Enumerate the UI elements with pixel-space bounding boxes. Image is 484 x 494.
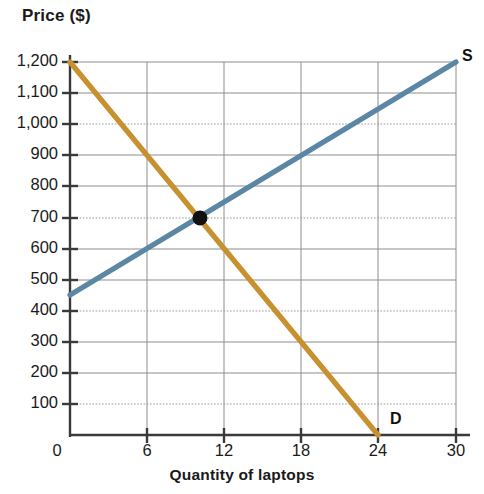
y-tick-label: 1,100 — [0, 82, 58, 101]
supply-curve — [70, 62, 456, 295]
supply-demand-chart: Price ($) — [0, 0, 484, 494]
chart-canvas — [0, 0, 484, 494]
gridlines-horizontal — [70, 62, 456, 404]
x-tick-label: 30 — [436, 441, 476, 460]
x-tick-label: 24 — [358, 441, 398, 460]
y-tick-label: 900 — [0, 144, 58, 163]
x-tick-label: 12 — [204, 441, 244, 460]
x-tick-label: 18 — [281, 441, 321, 460]
demand-curve-label: D — [390, 410, 402, 428]
y-tick-label: 800 — [0, 175, 58, 194]
supply-curve-label: S — [462, 47, 473, 65]
y-tick-label: 1,000 — [0, 113, 58, 132]
y-tick-label: 600 — [0, 238, 58, 257]
y-tick-label: 700 — [0, 207, 58, 226]
x-tick-label: 0 — [37, 441, 77, 460]
y-tick-label: 100 — [0, 393, 58, 412]
y-tick-label: 1,200 — [0, 51, 58, 70]
equilibrium-point — [193, 211, 208, 226]
y-tick-label: 500 — [0, 269, 58, 288]
y-tick-label: 300 — [0, 331, 58, 350]
axis-lines — [69, 55, 470, 437]
y-tick-label: 200 — [0, 362, 58, 381]
y-tick-label: 400 — [0, 300, 58, 319]
x-axis-title: Quantity of laptops — [0, 466, 484, 484]
x-tick-label: 6 — [127, 441, 167, 460]
